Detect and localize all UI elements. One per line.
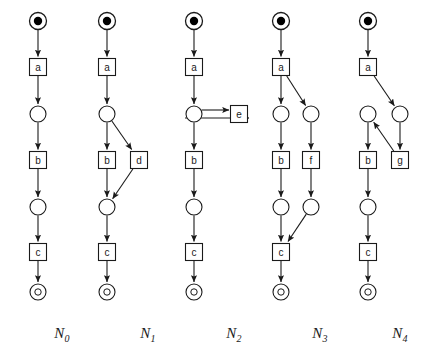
transition-label: c: [366, 247, 371, 258]
N0-p1-place[interactable]: [30, 106, 46, 122]
token-dot: [34, 17, 42, 25]
transition-label: a: [278, 62, 284, 73]
N1-p2-place[interactable]: [99, 199, 115, 215]
N3-t-f-transition[interactable]: f: [303, 152, 320, 169]
place-circle: [99, 284, 115, 300]
net-caption-base: N: [226, 325, 236, 341]
place-circle: [30, 199, 46, 215]
transition-label: b: [191, 155, 197, 166]
place-circle: [30, 284, 46, 300]
net-caption-base: N: [54, 325, 64, 341]
N1-t-d-transition[interactable]: d: [131, 152, 148, 169]
token-dot: [277, 17, 285, 25]
N2-p3-final-place[interactable]: [186, 284, 202, 300]
transition-label: a: [35, 62, 41, 73]
N1-p0-initial-place[interactable]: [99, 13, 116, 30]
N2-p1-place[interactable]: [186, 106, 202, 122]
N2-p0-initial-place[interactable]: [186, 13, 203, 30]
transition-label: b: [35, 155, 41, 166]
place-circle: [303, 106, 319, 122]
N3-p1-place[interactable]: [273, 106, 289, 122]
N2-t-c-transition[interactable]: c: [186, 244, 203, 261]
place-circle: [99, 199, 115, 215]
net-caption-subscript: 4: [403, 333, 408, 344]
N2-t-a-transition[interactable]: a: [186, 59, 203, 76]
N4-p2-place[interactable]: [360, 199, 376, 215]
arc-N4-t-a-to-p1r: [374, 76, 394, 106]
net-caption-subscript: 1: [151, 333, 156, 344]
N4-p3-final-place[interactable]: [360, 284, 376, 300]
N3-t-a-transition[interactable]: a: [273, 59, 290, 76]
place-circle: [273, 199, 289, 215]
token-dot: [364, 17, 372, 25]
N1-t-a-transition[interactable]: a: [99, 59, 116, 76]
place-circle: [273, 284, 289, 300]
N0-p2-place[interactable]: [30, 199, 46, 215]
token-dot: [103, 17, 111, 25]
token-dot: [190, 17, 198, 25]
N0-t-a-transition[interactable]: a: [30, 59, 47, 76]
transition-label: b: [365, 155, 371, 166]
N1-t-c-transition[interactable]: c: [99, 244, 116, 261]
arc-layer: [38, 30, 400, 282]
N4-p1r-place[interactable]: [392, 106, 408, 122]
transition-label: c: [36, 247, 41, 258]
place-circle: [186, 284, 202, 300]
transition-label: g: [397, 155, 403, 166]
transition-label: c: [279, 247, 284, 258]
N4-t-b-transition[interactable]: b: [360, 152, 377, 169]
net-caption-N4: N4: [392, 325, 407, 344]
place-circle: [186, 199, 202, 215]
N0-p0-initial-place[interactable]: [30, 13, 47, 30]
N0-t-c-transition[interactable]: c: [30, 244, 47, 261]
transition-label: d: [136, 155, 142, 166]
N2-t-b-transition[interactable]: b: [186, 152, 203, 169]
N2-p2-place[interactable]: [186, 199, 202, 215]
N3-p3-final-place[interactable]: [273, 284, 289, 300]
transition-label: b: [278, 155, 284, 166]
N1-p1-place[interactable]: [99, 106, 115, 122]
place-circle: [360, 106, 376, 122]
node-layer: abcabdcaebcabfcabgc: [30, 13, 409, 301]
transition-label: e: [236, 109, 242, 120]
N0-p3-final-place[interactable]: [30, 284, 46, 300]
N4-p0-initial-place[interactable]: [360, 13, 377, 30]
transition-label: a: [104, 62, 110, 73]
N4-t-g-transition[interactable]: g: [392, 152, 409, 169]
N2-t-e-transition[interactable]: e: [231, 106, 248, 123]
net-caption-subscript: 3: [323, 333, 328, 344]
N3-p1r-place[interactable]: [303, 106, 319, 122]
arc-N3-t-a-to-p1r: [287, 76, 306, 106]
transition-label: c: [105, 247, 110, 258]
transition-label: a: [191, 62, 197, 73]
N3-p2-place[interactable]: [273, 199, 289, 215]
N4-t-c-transition[interactable]: c: [360, 244, 377, 261]
N0-t-b-transition[interactable]: b: [30, 152, 47, 169]
place-circle: [186, 106, 202, 122]
arc-N4-t-g-to-p1: [374, 122, 394, 151]
place-circle: [303, 199, 319, 215]
net-caption-subscript: 0: [65, 333, 70, 344]
petri-net-canvas: abcabdcaebcabfcabgc: [0, 0, 428, 356]
net-caption-N3: N3: [312, 325, 327, 344]
N3-t-b-transition[interactable]: b: [273, 152, 290, 169]
N4-p1-place[interactable]: [360, 106, 376, 122]
arc-N3-p2r-to-t-c: [288, 214, 306, 241]
net-caption-N1: N1: [140, 325, 155, 344]
transition-label: f: [310, 155, 313, 166]
transition-label: a: [365, 62, 371, 73]
N3-p2r-place[interactable]: [303, 199, 319, 215]
N1-p3-final-place[interactable]: [99, 284, 115, 300]
N4-t-a-transition[interactable]: a: [360, 59, 377, 76]
N3-t-c-transition[interactable]: c: [273, 244, 290, 261]
net-caption-base: N: [392, 325, 402, 341]
arc-N1-t-d-to-p2: [113, 169, 133, 199]
net-caption-subscript: 2: [237, 333, 242, 344]
N3-p0-initial-place[interactable]: [273, 13, 290, 30]
N1-t-b-transition[interactable]: b: [99, 152, 116, 169]
place-circle: [99, 106, 115, 122]
arc-N1-p1-to-t-d: [112, 121, 132, 150]
place-circle: [30, 106, 46, 122]
net-caption-base: N: [140, 325, 150, 341]
place-circle: [273, 106, 289, 122]
